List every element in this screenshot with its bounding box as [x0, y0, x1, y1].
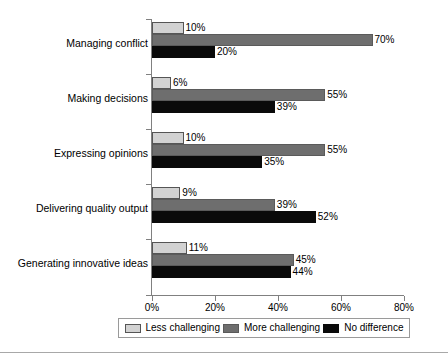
bar-making-decisions-more-challenging — [152, 89, 325, 101]
legend-swatch-icon — [125, 324, 141, 333]
y-axis-tick — [146, 19, 151, 20]
legend-item-more-challenging[interactable]: More challenging — [223, 322, 320, 334]
footer-divider — [0, 352, 448, 353]
x-axis-tick — [215, 296, 216, 301]
y-axis-tick — [146, 295, 151, 296]
bar-managing-conflict-more-challenging — [152, 34, 373, 46]
legend-swatch-icon — [323, 324, 339, 333]
legend-label: More challenging — [244, 322, 320, 334]
bar-value-label: 39% — [277, 199, 297, 211]
bar-value-label: 6% — [173, 77, 187, 89]
x-axis-tick — [404, 296, 405, 301]
category-label-2: Expressing opinions — [54, 147, 148, 159]
bar-value-label: 35% — [264, 156, 284, 168]
category-label-4: Generating innovative ideas — [18, 257, 148, 269]
y-axis-tick — [146, 239, 151, 240]
x-axis-tick-label: 0% — [145, 302, 159, 314]
bar-value-label: 11% — [189, 242, 208, 254]
y-axis-tick — [146, 184, 151, 185]
bar-value-label: 10% — [186, 132, 206, 144]
bar-value-label: 70% — [375, 34, 395, 46]
bar-delivering-quality-output-less-challenging — [152, 187, 180, 199]
bar-expressing-opinions-less-challenging — [152, 132, 184, 144]
x-axis-tick-label: 20% — [205, 302, 225, 314]
legend-label: No difference — [344, 322, 403, 334]
legend-item-less-challenging[interactable]: Less challenging — [125, 322, 221, 334]
legend-item-no-difference[interactable]: No difference — [323, 322, 403, 334]
bar-value-label: 9% — [182, 187, 196, 199]
x-axis-tick — [152, 296, 153, 301]
bar-making-decisions-no-difference — [152, 101, 275, 113]
legend-swatch-icon — [223, 324, 239, 333]
legend-label: Less challenging — [146, 322, 221, 334]
bar-delivering-quality-output-more-challenging — [152, 199, 275, 211]
bar-delivering-quality-output-no-difference — [152, 211, 316, 223]
bar-generating-innovative-ideas-more-challenging — [152, 254, 294, 266]
chart-legend: Less challenging More challenging No dif… — [118, 318, 410, 338]
x-axis-tick — [278, 296, 279, 301]
y-axis-tick — [146, 129, 151, 130]
grouped-bar-chart: Managing conflict Making decisions Expre… — [0, 0, 448, 361]
bar-value-label: 39% — [277, 101, 297, 113]
x-axis-tick-label: 40% — [268, 302, 288, 314]
bar-managing-conflict-no-difference — [152, 46, 215, 58]
bar-managing-conflict-less-challenging — [152, 22, 184, 34]
bar-value-label: 10% — [186, 22, 206, 34]
bar-value-label: 55% — [327, 89, 347, 101]
bar-value-label: 45% — [296, 254, 316, 266]
category-label-0: Managing conflict — [66, 37, 148, 49]
y-axis-tick — [146, 74, 151, 75]
bar-generating-innovative-ideas-no-difference — [152, 266, 291, 278]
bar-value-label: 52% — [318, 211, 338, 223]
bar-value-label: 55% — [327, 144, 347, 156]
bar-value-label: 44% — [293, 266, 313, 278]
bar-generating-innovative-ideas-less-challenging — [152, 242, 187, 254]
x-axis-tick — [341, 296, 342, 301]
bar-value-label: 20% — [217, 46, 237, 58]
bar-expressing-opinions-no-difference — [152, 156, 262, 168]
x-axis-tick-label: 60% — [331, 302, 351, 314]
bar-expressing-opinions-more-challenging — [152, 144, 325, 156]
category-label-3: Delivering quality output — [36, 202, 148, 214]
category-label-1: Making decisions — [67, 92, 148, 104]
x-axis-tick-label: 80% — [394, 302, 414, 314]
bar-making-decisions-less-challenging — [152, 77, 171, 89]
